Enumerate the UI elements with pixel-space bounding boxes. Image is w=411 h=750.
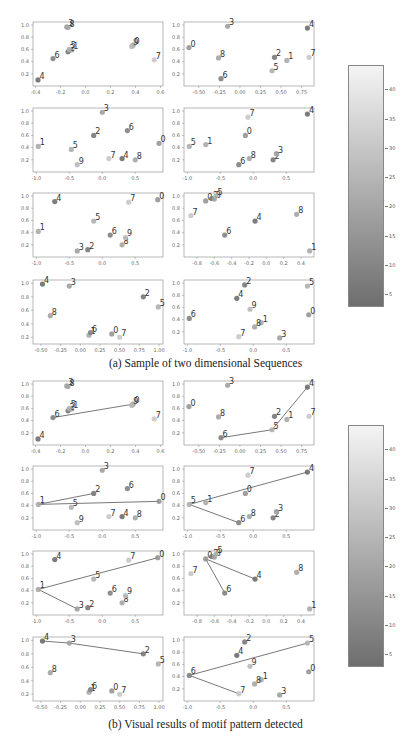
svg-text:0.2: 0.2	[172, 430, 180, 436]
svg-text:0.00: 0.00	[75, 347, 86, 353]
point-label: 0	[159, 192, 164, 201]
point-label: 1	[263, 672, 268, 681]
point-label: 5	[218, 546, 223, 555]
scatter-panel-a4: 0.20.40.60.81.0-1.0-0.50.00.5012345678	[184, 108, 314, 172]
colorbar-b: 510152025303540	[348, 425, 384, 667]
point-label: 5	[191, 496, 196, 505]
point-label: 9	[79, 515, 84, 524]
svg-text:1.0: 1.0	[172, 637, 180, 643]
point-label: 5	[160, 656, 165, 665]
svg-text:0.0: 0.0	[249, 704, 257, 710]
point-label: 3	[104, 104, 109, 113]
point-label: 4	[44, 633, 49, 642]
svg-text:0.6: 0.6	[21, 575, 29, 581]
svg-text:0.6: 0.6	[157, 448, 165, 454]
point-label: 8	[52, 665, 57, 674]
point-label: 9	[79, 157, 84, 166]
colorbar-tick: 35	[389, 476, 395, 482]
point-label: 5	[160, 299, 165, 308]
svg-text:-1.0: -1.0	[31, 260, 41, 266]
colorbar-tick: 20	[389, 203, 395, 209]
svg-text:0.4: 0.4	[172, 673, 180, 679]
svg-text:-0.5: -0.5	[64, 533, 74, 539]
point-label: 0	[190, 399, 195, 408]
svg-text:0.6: 0.6	[172, 46, 180, 52]
point-label: 7	[192, 566, 197, 575]
svg-text:1.0: 1.0	[172, 466, 180, 472]
svg-text:0.0: 0.0	[262, 260, 270, 266]
svg-text:0.5: 0.5	[131, 260, 139, 266]
point-label: 2	[95, 127, 100, 136]
point-label: 0	[161, 493, 166, 502]
svg-text:0.25: 0.25	[94, 347, 105, 353]
svg-text:1.0: 1.0	[21, 381, 29, 387]
svg-text:0.8: 0.8	[172, 120, 180, 126]
svg-text:0.75: 0.75	[134, 347, 145, 353]
point-label: 8	[70, 19, 75, 28]
scatter-panel-a5: 0.20.40.60.81.0-1.0-0.50.00.50123456789	[33, 193, 163, 257]
point-label: 6	[223, 71, 228, 80]
svg-text:-0.4: -0.4	[227, 260, 237, 266]
svg-text:1.0: 1.0	[172, 280, 180, 286]
svg-text:0.8: 0.8	[21, 478, 29, 484]
svg-text:-0.5: -0.5	[215, 347, 225, 353]
point-label: 6	[129, 481, 134, 490]
svg-text:0.4: 0.4	[21, 678, 29, 684]
svg-text:0.75: 0.75	[296, 89, 307, 95]
svg-text:-1.0: -1.0	[182, 704, 192, 710]
point-label: 6	[112, 227, 117, 236]
svg-text:-0.50: -0.50	[192, 89, 205, 95]
svg-text:0.4: 0.4	[172, 417, 180, 423]
svg-text:0.8: 0.8	[172, 205, 180, 211]
colorbar-tick: 10	[389, 622, 395, 628]
svg-text:0.6: 0.6	[157, 89, 165, 95]
svg-text:0.75: 0.75	[134, 704, 145, 710]
motif-panel-b7: 0.20.40.60.81.0-0.50-0.250.000.250.500.7…	[33, 637, 163, 701]
svg-text:1.00: 1.00	[153, 347, 164, 353]
point-label: 5	[95, 213, 100, 222]
point-label: 0	[247, 127, 252, 136]
point-label: 4	[309, 20, 314, 29]
point-label: 2	[145, 289, 150, 298]
svg-text:-1.0: -1.0	[31, 618, 41, 624]
point-label: 7	[311, 408, 316, 417]
scatter-panel-a8: 0.20.40.60.81.0-1.0-0.50.00.50123456789	[184, 280, 314, 344]
svg-text:0.4: 0.4	[21, 58, 29, 64]
point-label: 3	[79, 601, 84, 610]
point-label: 4	[44, 276, 49, 285]
point-label: 8	[52, 308, 57, 317]
svg-text:0.6: 0.6	[172, 661, 180, 667]
motif-panel-b6: 0.20.40.60.81.0-0.8-0.6-0.4-0.20.00.20.4…	[184, 551, 314, 615]
svg-text:-0.25: -0.25	[213, 89, 226, 95]
point-label: 3	[281, 687, 286, 696]
point-label: 7	[156, 52, 161, 61]
point-label: 6	[191, 310, 196, 319]
svg-text:-0.50: -0.50	[34, 704, 47, 710]
point-label: 2	[246, 634, 251, 643]
point-label: 7	[130, 194, 135, 203]
colorbar-tick: 5	[389, 291, 392, 297]
svg-text:-0.25: -0.25	[213, 448, 226, 454]
svg-text:0.0: 0.0	[249, 347, 257, 353]
svg-text:0.00: 0.00	[234, 89, 245, 95]
svg-text:0.6: 0.6	[21, 307, 29, 313]
point-label: 2	[145, 646, 150, 655]
colorbar-tick: 25	[389, 174, 395, 180]
point-label: 7	[156, 411, 161, 420]
point-label: 2	[95, 485, 100, 494]
svg-text:0.2: 0.2	[21, 157, 29, 163]
motif-panel-b2: 0.20.40.60.81.0-0.50-0.250.000.250.500.7…	[184, 381, 314, 445]
svg-text:0.0: 0.0	[249, 175, 257, 181]
point-label: 2	[89, 600, 94, 609]
point-label: 8	[256, 676, 261, 685]
point-label: 1	[288, 52, 293, 61]
svg-text:-0.5: -0.5	[215, 704, 225, 710]
point-label: 8	[220, 50, 225, 59]
svg-text:0.8: 0.8	[172, 292, 180, 298]
point-label: 1	[207, 137, 212, 146]
svg-text:-0.2: -0.2	[56, 89, 66, 95]
point-label: 7	[240, 686, 245, 695]
point-label: 5	[73, 141, 78, 150]
point-label: 6	[112, 585, 117, 594]
colorbar-tick: 15	[389, 233, 395, 239]
